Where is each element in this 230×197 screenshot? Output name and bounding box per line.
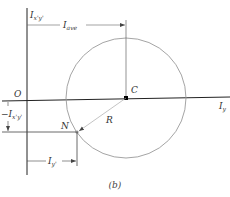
mohr-circle-diagram: Iave Ix'y' O Iy C R N −Ix'y' Iy' (b) bbox=[0, 0, 230, 197]
i-ave-label: Iave bbox=[62, 20, 78, 31]
center-label: C bbox=[131, 85, 138, 95]
figure-caption: (b) bbox=[109, 180, 122, 190]
radius-line bbox=[79, 98, 126, 131]
origin-label: O bbox=[14, 89, 22, 99]
vertical-axis-label: Ix'y' bbox=[29, 10, 44, 22]
radius-label: R bbox=[105, 115, 113, 125]
horizontal-axis bbox=[2, 97, 230, 101]
moment-dimension-label: Iy' bbox=[47, 156, 57, 168]
product-dimension-label: −Ix'y' bbox=[1, 109, 23, 121]
point-n-label: N bbox=[60, 121, 70, 131]
horizontal-axis-label: Iy bbox=[218, 101, 227, 113]
